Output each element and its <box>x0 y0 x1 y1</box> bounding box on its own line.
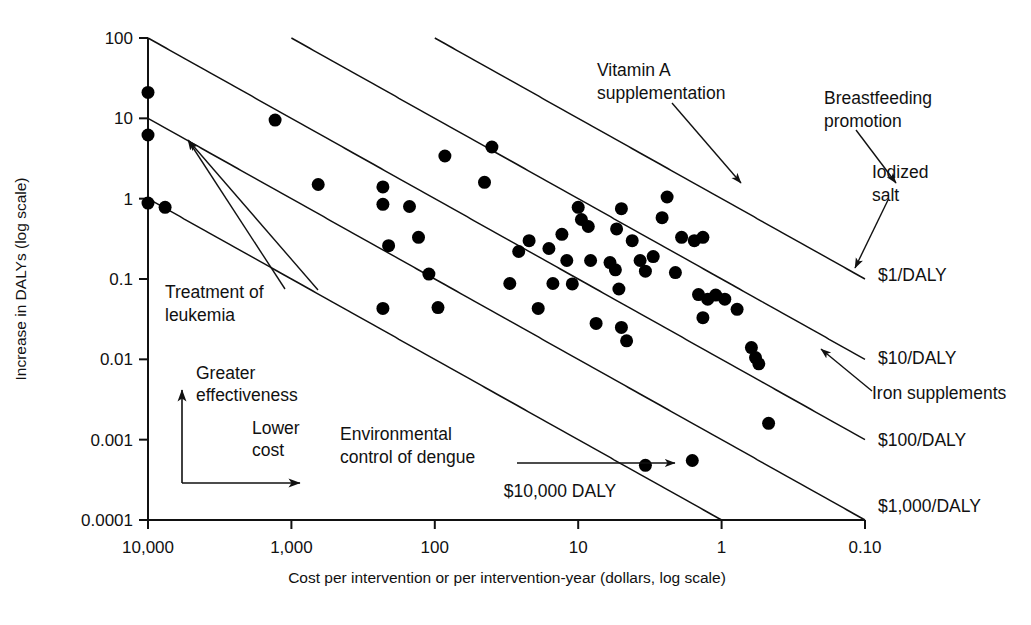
data-point <box>382 239 395 252</box>
y-tick-label-2: 1 <box>124 190 133 209</box>
data-point <box>696 311 709 324</box>
data-point <box>376 302 389 315</box>
data-point <box>159 201 172 214</box>
x-tick-label-1: 1,000 <box>270 538 313 557</box>
y-axis-title: Increase in DALYs (log scale) <box>12 177 29 380</box>
data-point <box>142 86 155 99</box>
ref-line-label-4: $10,000 DALY <box>504 481 617 501</box>
data-point <box>647 250 660 263</box>
ref-line-label-1: $10/DALY <box>878 348 957 368</box>
data-point <box>412 231 425 244</box>
data-point <box>620 334 633 347</box>
data-point <box>615 202 628 215</box>
data-point <box>609 263 622 276</box>
data-point <box>566 277 579 290</box>
data-point <box>432 301 445 314</box>
breastfeeding-annotation-line-1: promotion <box>824 111 902 131</box>
data-point <box>752 357 765 370</box>
scatter-plot-svg: 1001010.10.010.0010.000110,0001,00010010… <box>0 0 1031 625</box>
ref-line-label-0: $1/DALY <box>878 265 947 285</box>
lower-cost-line-1: cost <box>252 440 284 460</box>
breastfeeding-annotation-line-0: Breastfeeding <box>824 88 932 108</box>
data-point <box>478 176 491 189</box>
data-point <box>523 234 536 247</box>
x-tick-label-4: 1 <box>717 538 726 557</box>
data-point <box>142 129 155 142</box>
data-point <box>532 302 545 315</box>
data-point <box>590 317 603 330</box>
vitamin-a-annotation-line-0: Vitamin A <box>597 60 671 80</box>
data-point <box>376 198 389 211</box>
data-point <box>403 200 416 213</box>
env-dengue-annotation-line-1: control of dengue <box>340 447 475 467</box>
y-tick-label-1: 10 <box>114 109 133 128</box>
data-point <box>555 228 568 241</box>
data-point <box>686 454 699 467</box>
x-tick-label-0: 10,000 <box>122 538 174 557</box>
data-point <box>542 242 555 255</box>
data-point <box>610 222 623 235</box>
data-point <box>626 234 639 247</box>
data-point <box>656 211 669 224</box>
x-axis-title: Cost per intervention or per interventio… <box>288 569 726 586</box>
data-point <box>661 191 674 204</box>
data-point <box>269 114 282 127</box>
x-tick-label-3: 10 <box>569 538 588 557</box>
y-tick-label-0: 100 <box>105 29 133 48</box>
x-tick-label-2: 100 <box>421 538 449 557</box>
data-point <box>422 268 435 281</box>
ref-line-label-2: $100/DALY <box>878 430 967 450</box>
chart-figure: 1001010.10.010.0010.000110,0001,00010010… <box>0 0 1031 625</box>
iron-supplements-annotation-line-0: Iron supplements <box>872 383 1006 403</box>
data-point <box>675 231 688 244</box>
data-point <box>503 277 516 290</box>
data-point <box>615 321 628 334</box>
x-tick-label-5: 0.10 <box>848 538 881 557</box>
env-dengue-annotation-line-0: Environmental <box>340 424 452 444</box>
data-point <box>438 150 451 163</box>
data-point <box>731 303 744 316</box>
treatment-leukemia-annotation-line-1: leukemia <box>165 305 235 325</box>
data-point <box>669 266 682 279</box>
data-point <box>718 293 731 306</box>
data-point <box>612 283 625 296</box>
lower-cost-line-0: Lower <box>252 418 300 438</box>
vitamin-a-annotation-line-1: supplementation <box>597 83 725 103</box>
data-point <box>485 141 498 154</box>
data-point <box>582 220 595 233</box>
iodized-salt-annotation-line-1: salt <box>872 185 899 205</box>
data-point <box>572 201 585 214</box>
data-point <box>312 178 325 191</box>
y-tick-label-5: 0.001 <box>90 431 133 450</box>
y-tick-label-6: 0.0001 <box>81 511 133 530</box>
data-point <box>696 231 709 244</box>
y-tick-label-3: 0.1 <box>109 270 133 289</box>
data-point <box>639 459 652 472</box>
data-point <box>546 277 559 290</box>
greater-effectiveness-line-0: Greater <box>196 363 255 383</box>
iodized-salt-annotation-line-0: Iodized <box>872 162 928 182</box>
y-tick-label-4: 0.01 <box>100 350 133 369</box>
data-point <box>560 254 573 267</box>
data-point <box>584 254 597 267</box>
data-point <box>376 180 389 193</box>
data-point <box>762 417 775 430</box>
greater-effectiveness-line-1: effectiveness <box>196 385 298 405</box>
data-point <box>512 245 525 258</box>
data-point <box>639 265 652 278</box>
ref-line-label-3: $1,000/DALY <box>878 496 981 516</box>
treatment-leukemia-annotation-line-0: Treatment of <box>165 282 264 302</box>
data-point <box>142 197 155 210</box>
